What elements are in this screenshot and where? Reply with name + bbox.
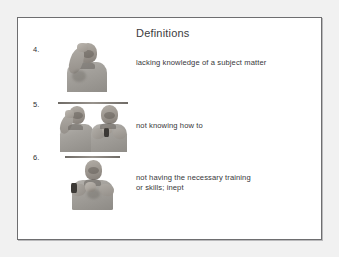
page-title: Definitions (136, 27, 190, 39)
sign-photo-ignorant (58, 40, 116, 92)
list-item-number: 4. (33, 45, 39, 54)
presentation-slide: Definitions 4. lacking knowledge of a su… (17, 17, 322, 240)
screenshot-root: Definitions 4. lacking knowledge of a su… (0, 0, 339, 257)
sign-photo-unskilled (65, 156, 120, 210)
definition-text: not having the necessary training or ski… (136, 173, 251, 193)
list-item-number: 6. (33, 153, 39, 162)
sign-photo-dont-know-how (58, 102, 128, 152)
definition-text: lacking knowledge of a subject matter (136, 58, 266, 68)
list-item-number: 5. (33, 100, 39, 109)
definition-text: not knowing how to (136, 121, 203, 131)
